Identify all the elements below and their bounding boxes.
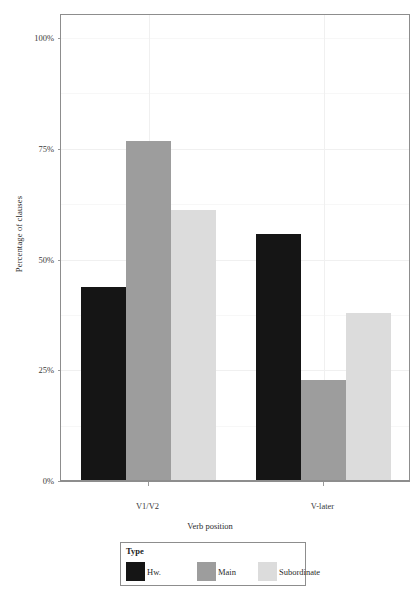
legend-label: Main [218,567,236,577]
legend-label: Hw. [147,567,161,577]
bar-chart-figure: Percentage of clauses 0%25%50%75%100% Ve… [0,0,420,600]
x-axis-tick-label: V1/V2 [103,501,193,511]
legend-title: Type [126,546,144,556]
legend-swatch-icon [197,562,216,581]
plot-panel [60,14,410,481]
bar-hw--v1-v2 [81,287,126,480]
legend-swatch-icon [258,562,277,581]
x-axis-tick-mark [323,482,324,486]
x-axis-tick-mark [148,482,149,486]
legend-label: Subordinate [279,567,320,577]
bar-main-v1-v2 [126,141,171,480]
bar-subordinate-v-later [346,313,391,480]
gridline-minor-y [61,38,409,39]
bar-subordinate-v1-v2 [171,210,216,480]
x-axis-title: Verb position [0,521,420,531]
y-axis-tick-label: 25% [8,366,54,375]
x-axis-tick-label: V-later [278,501,368,511]
figure-caption [0,592,420,600]
legend: Type Hw.MainSubordinate [120,542,306,586]
gridline-major-y [61,260,409,261]
gridline-minor-y [61,93,409,94]
y-axis-tick-label: 50% [8,256,54,265]
y-axis-tick-label: 0% [8,477,54,486]
y-axis-tick-labels: 0%25%50%75%100% [4,0,54,600]
gridline-minor-y [61,204,409,205]
bar-main-v-later [301,380,346,480]
gridline-major-y [61,149,409,150]
legend-swatch-icon [126,562,145,581]
bar-hw--v-later [256,234,301,480]
y-axis-tick-label: 100% [8,34,54,43]
x-axis-line [60,481,410,482]
y-axis-tick-label: 75% [8,145,54,154]
